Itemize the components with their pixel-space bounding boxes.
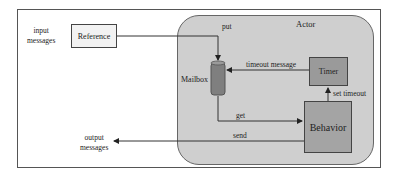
get-label: get xyxy=(236,111,245,121)
output-messages-label: output messages xyxy=(80,133,108,153)
behavior-label: Behavior xyxy=(310,122,347,133)
mailbox-label: Mailbox xyxy=(181,75,208,85)
timer-label: Timer xyxy=(319,67,338,76)
put-label: put xyxy=(222,22,232,32)
output-label-line1: output xyxy=(80,133,108,143)
set-timeout-label: set timeout xyxy=(333,89,366,99)
output-label-line2: messages xyxy=(80,143,108,153)
timeout-message-label: timeout message xyxy=(246,60,296,70)
send-label: send xyxy=(233,131,247,141)
mailbox-cylinder xyxy=(211,63,225,95)
timer-box: Timer xyxy=(309,57,348,86)
behavior-box: Behavior xyxy=(304,101,352,153)
